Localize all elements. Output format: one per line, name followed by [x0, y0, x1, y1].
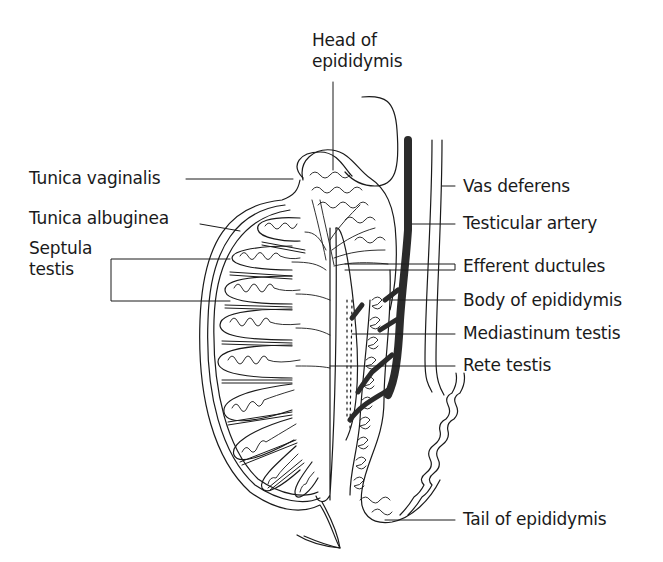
body-of-epididymis-inner [350, 300, 370, 495]
vas-deferens-outer [436, 140, 444, 395]
label-head-of-epididymis: Head of epididymis [312, 30, 402, 72]
label-tail-of-epididymis: Tail of epididymis [463, 509, 607, 530]
label-rete-testis: Rete testis [463, 355, 551, 376]
label-mediastinum-testis: Mediastinum testis [463, 323, 620, 344]
vas-deferens-convoluted [400, 373, 457, 515]
label-testicular-artery: Testicular artery [463, 213, 597, 234]
testis-inner-boundary [316, 228, 336, 502]
label-body-of-epididymis: Body of epididymis [463, 290, 622, 311]
vas-deferens [425, 140, 432, 392]
leader-tunica-albuginea [200, 224, 240, 231]
label-efferent-ductules: Efferent ductules [463, 256, 605, 277]
tunica-vaginalis-upper-loop [345, 97, 398, 186]
label-vas-deferens: Vas deferens [463, 176, 570, 197]
testis-anatomy-illustration [0, 0, 663, 562]
septula-testis [222, 242, 305, 490]
label-tunica-vaginalis: Tunica vaginalis [29, 168, 161, 189]
label-head-line1: Head of [312, 30, 402, 51]
vas-deferens-convoluted-inner [408, 373, 465, 515]
label-head-line2: epididymis [312, 51, 402, 72]
label-tunica-albuginea: Tunica albuginea [29, 208, 169, 229]
label-septula-testis: Septula testis [29, 238, 92, 280]
label-septula-line2: testis [29, 259, 92, 280]
label-septula-line1: Septula [29, 238, 92, 259]
efferent-ductules [330, 205, 388, 266]
